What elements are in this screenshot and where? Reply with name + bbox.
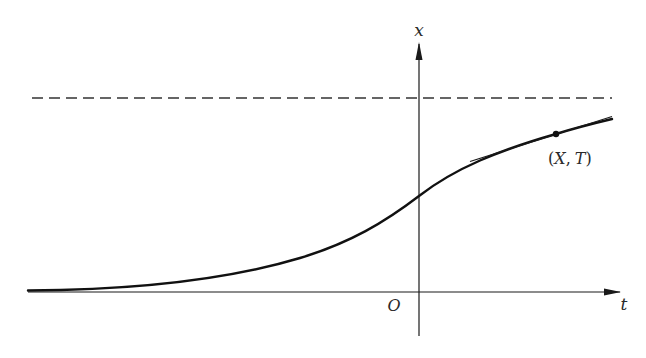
x-axis-label: x: [414, 20, 424, 40]
t-axis-label: t: [621, 294, 628, 314]
t-axis-arrow-icon: [604, 289, 621, 296]
point-label: (X,T): [548, 149, 592, 168]
diagram-canvas: x t O (X,T): [0, 0, 646, 358]
origin-label: O: [387, 296, 400, 315]
x-axis-arrow-icon: [416, 42, 423, 60]
point-marker: [553, 131, 559, 137]
